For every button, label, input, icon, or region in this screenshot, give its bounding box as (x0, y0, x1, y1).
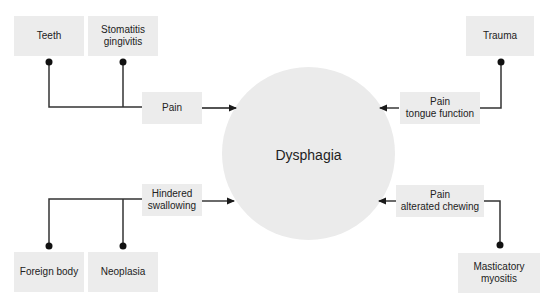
pain-label: Pain (162, 102, 182, 114)
pain-box: Pain (142, 92, 202, 124)
foreign-body-dot-icon (46, 243, 53, 250)
masticatory-myositis-label: Masticatory myositis (473, 261, 524, 285)
hindered-swallowing-box: Hindered swallowing (142, 184, 202, 216)
stomatitis-dot-icon (120, 59, 127, 66)
stomatitis-gingivitis-label: Stomatitis gingivitis (101, 24, 145, 48)
foreign-body-box: Foreign body (14, 252, 84, 292)
teeth-box: Teeth (14, 16, 84, 56)
trauma-dot-icon (498, 59, 505, 66)
trauma-label: Trauma (483, 30, 517, 42)
hindered-swallowing-label: Hindered swallowing (148, 188, 196, 212)
pain-alterated-chewing-label: Pain alterated chewing (401, 189, 479, 213)
teeth-label: Teeth (37, 30, 61, 42)
trauma-box: Trauma (466, 16, 534, 56)
pain-connector (46, 59, 237, 109)
teeth-dot-icon (46, 59, 53, 66)
hindered-swallowing-connector (46, 199, 235, 250)
masticatory-myositis-dot-icon (497, 242, 504, 249)
neoplasia-box: Neoplasia (88, 252, 158, 292)
pain-tongue-function-box: Pain tongue function (400, 92, 480, 124)
foreign-body-label: Foreign body (20, 266, 78, 278)
stomatitis-gingivitis-box: Stomatitis gingivitis (88, 16, 158, 56)
neoplasia-dot-icon (120, 243, 127, 250)
pain-tongue-function-label: Pain tongue function (406, 96, 474, 120)
dysphagia-diagram: Dysphagia (0, 0, 548, 306)
masticatory-myositis-box: Masticatory myositis (458, 253, 540, 293)
pain-alterated-chewing-box: Pain alterated chewing (396, 185, 484, 217)
neoplasia-label: Neoplasia (101, 266, 145, 278)
